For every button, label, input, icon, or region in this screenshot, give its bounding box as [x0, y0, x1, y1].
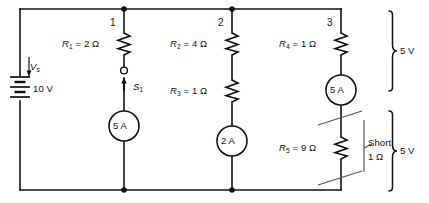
switch-s1-symbol[interactable]: [121, 67, 128, 91]
switch-open-terminal-circle[interactable]: [121, 67, 128, 74]
source-value-label: 10 V: [33, 84, 53, 94]
r2-name: R: [170, 38, 177, 49]
switch-sub: 1: [139, 86, 143, 93]
resistor-r5-symbol: [335, 137, 347, 159]
ammeter-branch-2-reading: 2 A: [221, 136, 235, 146]
node-label-3: 3: [327, 18, 333, 28]
r3-unit: Ω: [200, 85, 207, 96]
resistor-r5-label: R5 = 9 Ω: [279, 143, 316, 153]
short-annotation-label: Short: [368, 138, 391, 148]
switch-actuator-arrow-head: [121, 78, 126, 84]
r4-name: R: [279, 38, 286, 49]
resistor-r1-symbol: [118, 33, 130, 55]
r1-value: = 2: [73, 38, 92, 49]
resistor-r4-symbol: [335, 33, 347, 55]
bracket-upper-label: 5 V: [400, 46, 415, 56]
junction-dot-node-1-top: [121, 6, 127, 12]
ammeter-branch-1-reading: 5 A: [113, 121, 127, 131]
bracket-upper-path: [389, 11, 397, 91]
r1-unit: Ω: [92, 38, 99, 49]
r4-value: = 1: [290, 38, 309, 49]
r4-unit: Ω: [309, 38, 316, 49]
r2-unit: Ω: [200, 38, 207, 49]
short-slash-upper: [318, 111, 362, 125]
r5-value: = 9: [290, 142, 309, 153]
source-name-subscript: s: [36, 66, 39, 73]
resistor-r2-label: R2 = 4 Ω: [170, 39, 207, 49]
node-label-2: 2: [218, 18, 224, 28]
node-label-1: 1: [110, 18, 116, 28]
voltage-span-brackets: [389, 11, 397, 191]
resistor-r2-symbol: [226, 33, 238, 55]
r3-sub: 3: [177, 90, 181, 97]
resistor-r1-label: R1 = 2 Ω: [62, 39, 99, 49]
r1-sub: 1: [69, 43, 73, 50]
r3-value: = 1: [181, 85, 200, 96]
switch-s1-label: S1: [133, 82, 143, 92]
circuit-diagram: 1 2 3 Vs 10 V R1 = 2 Ω R2 = 4 Ω R3 = 1 Ω…: [0, 0, 429, 203]
bracket-lower-path: [389, 111, 397, 191]
short-slash-lower: [318, 171, 362, 185]
resistor-r3-label: R3 = 1 Ω: [170, 86, 207, 96]
r5-name: R: [279, 142, 286, 153]
r2-sub: 2: [177, 43, 181, 50]
r3-name: R: [170, 85, 177, 96]
r5-sub: 5: [286, 147, 290, 154]
r5-unit: Ω: [309, 142, 316, 153]
junction-dots: [121, 6, 235, 193]
circuit-wires: [20, 9, 341, 190]
r2-value: = 4: [181, 38, 200, 49]
short-annotation-value: 1 Ω: [368, 152, 383, 162]
resistor-r3-symbol: [226, 80, 238, 102]
junction-dot-node-2-bottom: [229, 187, 235, 193]
junction-dot-node-1-bottom: [121, 187, 127, 193]
junction-dot-node-2-top: [229, 6, 235, 12]
r1-name: R: [62, 38, 69, 49]
resistor-r4-label: R4 = 1 Ω: [279, 39, 316, 49]
r4-sub: 4: [286, 43, 290, 50]
bracket-lower-label: 5 V: [400, 146, 415, 156]
circuit-schematic-svg: [0, 0, 429, 203]
source-name-label: Vs: [30, 62, 40, 72]
ammeter-branch-3-reading: 5 A: [330, 85, 344, 95]
